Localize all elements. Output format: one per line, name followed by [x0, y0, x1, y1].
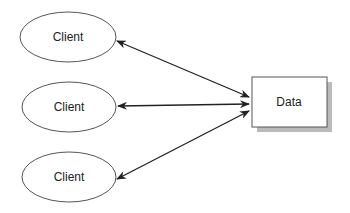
client-data-diagram: Client Client Client Data — [0, 0, 350, 213]
client-label: Client — [54, 100, 85, 114]
client-node-2: Client — [22, 82, 116, 132]
client-node-3: Client — [22, 152, 116, 202]
client-label: Client — [53, 30, 84, 44]
edge-client-1-data — [117, 41, 249, 97]
client-label: Client — [54, 170, 85, 184]
edge-client-2-data — [118, 104, 249, 106]
edge-client-3-data — [117, 111, 249, 179]
data-label: Data — [276, 95, 302, 109]
data-node: Data — [252, 77, 332, 132]
client-node-1: Client — [20, 12, 116, 62]
